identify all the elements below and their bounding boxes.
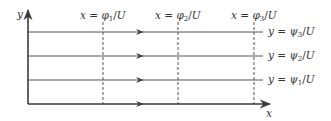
flow-arrows xyxy=(136,29,144,107)
streamline-label-3: y = ψ3/U xyxy=(268,26,315,39)
streamline-label-2: y = ψ2/U xyxy=(268,50,315,63)
potential-label-3: x = φ3/U xyxy=(231,10,277,23)
axes xyxy=(28,10,270,104)
y-axis-label: y xyxy=(17,9,23,20)
x-axis-label: x xyxy=(266,108,272,119)
potential-label-2: x = φ2/U xyxy=(155,10,201,23)
potential-label-1: x = φ1/U xyxy=(80,10,126,23)
potential-lines xyxy=(103,22,254,104)
streamline-label-1: y = ψ1/U xyxy=(268,74,315,87)
streamlines xyxy=(28,32,263,80)
